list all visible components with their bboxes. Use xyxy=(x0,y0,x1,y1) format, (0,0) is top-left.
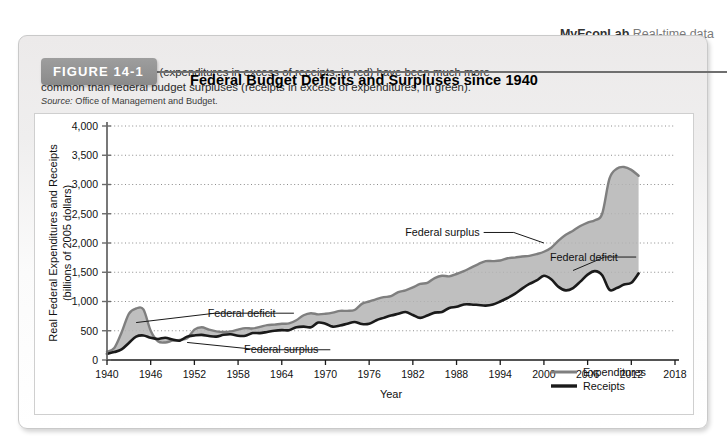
svg-text:Year: Year xyxy=(380,388,403,400)
figure-source: Source: Office of Management and Budget. xyxy=(41,96,218,106)
svg-text:1994: 1994 xyxy=(489,368,513,380)
svg-text:1,000: 1,000 xyxy=(72,295,98,307)
svg-text:3,500: 3,500 xyxy=(72,149,98,161)
svg-text:0: 0 xyxy=(92,354,98,366)
source-text: Office of Management and Budget. xyxy=(75,96,217,106)
svg-text:1982: 1982 xyxy=(401,368,425,380)
svg-text:Expenditures: Expenditures xyxy=(583,366,647,378)
svg-text:500: 500 xyxy=(80,325,98,337)
svg-text:2,500: 2,500 xyxy=(72,208,98,220)
svg-text:Receipts: Receipts xyxy=(583,380,626,392)
svg-text:1964: 1964 xyxy=(270,368,294,380)
chart-plot-card: 05001,0001,5002,0002,5003,0003,5004,0001… xyxy=(34,113,694,415)
svg-text:1952: 1952 xyxy=(183,368,207,380)
svg-text:4,000: 4,000 xyxy=(72,120,98,132)
budget-area-chart: 05001,0001,5002,0002,5003,0003,5004,0001… xyxy=(35,114,693,414)
svg-text:2,000: 2,000 xyxy=(72,237,98,249)
figure-panel: FIGURE 14-1 Federal Budget Deficits and … xyxy=(18,35,708,429)
svg-text:1988: 1988 xyxy=(445,368,469,380)
figure-title: Federal Budget Deficits and Surpluses si… xyxy=(19,72,709,88)
svg-text:3,000: 3,000 xyxy=(72,178,98,190)
source-label: Source: xyxy=(41,96,73,106)
svg-text:1946: 1946 xyxy=(139,368,163,380)
svg-text:1,500: 1,500 xyxy=(72,266,98,278)
svg-text:Real Federal Expenditures and: Real Federal Expenditures and Receipts xyxy=(47,144,59,342)
svg-text:1976: 1976 xyxy=(357,368,381,380)
svg-text:1958: 1958 xyxy=(226,368,250,380)
svg-text:2000: 2000 xyxy=(532,368,556,380)
svg-text:1940: 1940 xyxy=(95,368,119,380)
svg-text:Federal surplus: Federal surplus xyxy=(405,226,480,238)
svg-text:1970: 1970 xyxy=(314,368,338,380)
svg-text:2018: 2018 xyxy=(663,368,687,380)
svg-text:(billions of 2005 dollars): (billions of 2005 dollars) xyxy=(61,185,73,301)
